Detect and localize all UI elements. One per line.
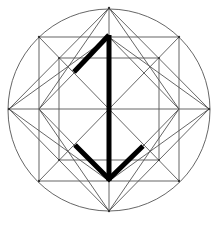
vertex-dot-left — [8, 108, 10, 110]
vertex-dot-br — [178, 180, 180, 182]
vertex-dot-right — [208, 108, 210, 110]
guide-top-left — [39, 8, 109, 109]
vertex-dot-bottom — [108, 210, 110, 212]
vertex-dot-bl — [38, 180, 40, 182]
vertex-dot-inner-br — [158, 159, 160, 161]
vertex-dot-inner-tl — [58, 57, 60, 59]
vertex-dot-tl — [38, 36, 40, 38]
geometric-rune-diagram — [0, 0, 218, 225]
vertex-dot-tr — [178, 36, 180, 38]
vertex-dot-top — [108, 7, 110, 9]
guide-top-right — [109, 8, 179, 109]
rune-upper-branch — [74, 35, 109, 72]
vertex-dot-inner-bl — [58, 159, 60, 161]
vertex-dot-inner-tr — [158, 57, 160, 59]
